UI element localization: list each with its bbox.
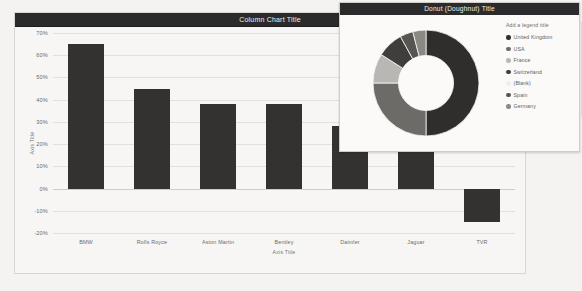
legend-item-label: Switzerland — [514, 69, 542, 75]
screenshot-root: Column Chart Title Axis Title 70%60%50%4… — [0, 0, 582, 291]
y-tick-label: -10% — [34, 208, 48, 214]
donut-chart-panel[interactable]: Donut (Doughnut) Title Add a legend titl… — [339, 2, 580, 152]
bar-column[interactable] — [251, 33, 317, 233]
y-tick-label: 20% — [36, 141, 48, 147]
y-tick-label: 50% — [36, 74, 48, 80]
legend-swatch-icon — [506, 81, 511, 86]
legend-swatch-icon — [506, 35, 511, 40]
bar-column[interactable] — [53, 33, 119, 233]
y-tick-label: 60% — [36, 52, 48, 58]
y-tick-label: 70% — [36, 30, 48, 36]
x-tick-label: Aston Martin — [185, 239, 251, 245]
y-tick-label: 10% — [36, 163, 48, 169]
y-tick-label: 40% — [36, 97, 48, 103]
y-tick-label: 0% — [40, 186, 49, 192]
legend-swatch-icon — [506, 58, 511, 63]
legend-item-list: United KingdomUSAFranceSwitzerland(Blank… — [506, 32, 578, 113]
legend-item[interactable]: USA — [506, 43, 578, 55]
donut-svg — [370, 27, 482, 139]
legend-item-label: USA — [514, 46, 525, 52]
donut-graphic — [370, 27, 482, 139]
legend-item-label: France — [514, 57, 531, 63]
gridline — [53, 233, 515, 234]
legend-item-label: (Blank) — [514, 80, 531, 86]
bar[interactable] — [266, 104, 303, 188]
legend-item[interactable]: Spain — [506, 89, 578, 101]
x-tick-label: Daimler — [317, 239, 383, 245]
column-chart-x-axis-title: Axis Title — [53, 249, 515, 255]
legend-swatch-icon — [506, 93, 511, 98]
bar[interactable] — [464, 189, 501, 222]
x-tick-label: BMW — [53, 239, 119, 245]
bar[interactable] — [200, 104, 237, 188]
bar-column[interactable] — [185, 33, 251, 233]
legend-title: Add a legend title — [506, 22, 578, 28]
bar[interactable] — [68, 44, 105, 188]
y-tick-label: -20% — [34, 230, 48, 236]
legend-swatch-icon — [506, 47, 511, 52]
legend-item[interactable]: Germany — [506, 101, 578, 113]
x-tick-label: Rolls Royce — [119, 239, 185, 245]
legend-item[interactable]: France — [506, 55, 578, 67]
y-tick-label: 30% — [36, 119, 48, 125]
legend-item[interactable]: (Blank) — [506, 78, 578, 90]
legend-swatch-icon — [506, 104, 511, 109]
legend-item-label: Germany — [514, 103, 536, 109]
donut-segment[interactable] — [426, 30, 479, 136]
donut-chart-title: Donut (Doughnut) Title — [340, 4, 579, 14]
bar[interactable] — [134, 89, 171, 189]
x-tick-label: Bentley — [251, 239, 317, 245]
x-tick-label: Jaguar — [383, 239, 449, 245]
donut-chart-body: Add a legend title United KingdomUSAFran… — [340, 15, 579, 151]
column-chart-y-axis-title: Axis Title — [29, 132, 35, 155]
donut-legend: Add a legend title United KingdomUSAFran… — [506, 22, 578, 112]
legend-item-label: Spain — [514, 92, 528, 98]
bar-column[interactable] — [119, 33, 185, 233]
legend-item-label: United Kingdom — [514, 34, 553, 40]
donut-segment[interactable] — [373, 83, 426, 136]
legend-item[interactable]: United Kingdom — [506, 32, 578, 44]
legend-swatch-icon — [506, 70, 511, 75]
legend-item[interactable]: Switzerland — [506, 66, 578, 78]
x-tick-label: TVR — [449, 239, 515, 245]
